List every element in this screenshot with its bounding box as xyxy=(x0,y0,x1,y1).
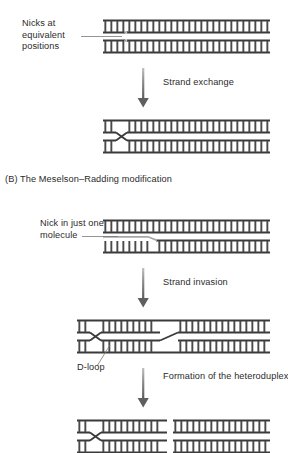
duplex-upper-2 xyxy=(103,120,270,134)
label-d-loop: D-loop xyxy=(77,362,105,374)
label-formation-of-the-heteroduplex: Formation of the heteroduplex xyxy=(163,371,288,383)
crossover-x-2 xyxy=(90,333,101,341)
arrow-heteroduplex-formation xyxy=(138,368,149,408)
label-nicks-at-equivalent-positions: Nicks at equivalent positions xyxy=(22,18,94,53)
crossover-x-3 xyxy=(90,433,101,441)
crossover-x-1 xyxy=(116,133,127,141)
step-heteroduplex-joint xyxy=(77,420,270,453)
arrow-strand-exchange xyxy=(138,68,149,108)
duplex-lower-5 xyxy=(77,440,270,453)
label-strand-exchange: Strand exchange xyxy=(163,77,234,89)
step-two-duplexes-with-nicks xyxy=(81,20,270,54)
label-strand-invasion: Strand invasion xyxy=(163,277,228,289)
duplex-lower-1 xyxy=(103,39,270,53)
label-nick-in-just-one-molecule: Nick in just one molecule xyxy=(40,218,112,241)
step-strand-exchange-crossover xyxy=(103,120,270,154)
arrow-strand-invasion xyxy=(138,268,149,308)
duplex-lower-3 xyxy=(103,237,270,254)
duplex-lower-2 xyxy=(103,140,270,154)
d-loop-closing-strand xyxy=(160,333,178,341)
duplex-upper-1 xyxy=(103,20,270,34)
duplex-upper-5 xyxy=(77,420,270,434)
panel-b-heading: (B) The Meselson–Radding modification xyxy=(5,174,172,184)
duplex-upper-3 xyxy=(103,220,270,234)
step-d-loop-intermediate xyxy=(77,320,270,367)
figure-canvas: Nicks at equivalent positions Strand exc… xyxy=(0,0,288,453)
duplex-upper-4 xyxy=(77,320,270,334)
